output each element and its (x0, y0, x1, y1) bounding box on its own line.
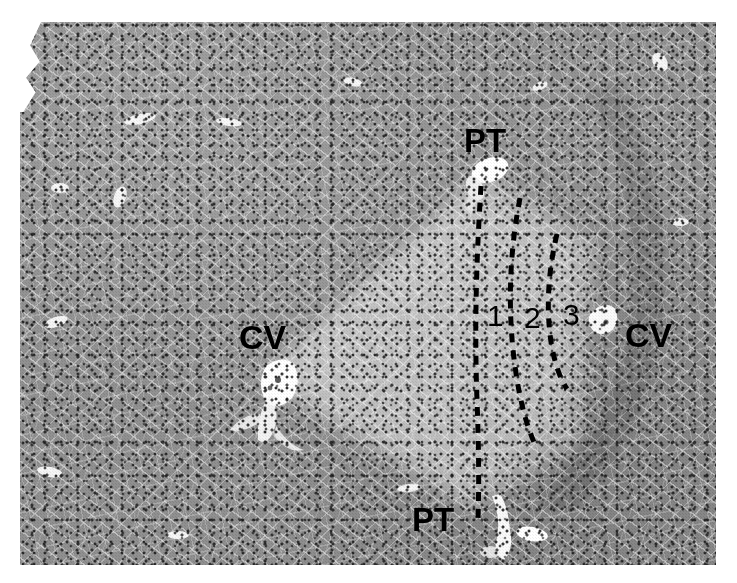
label-zone-1: 1 (487, 301, 504, 331)
label-zone-2: 2 (524, 303, 541, 333)
label-central-vein-left: CV (239, 320, 286, 354)
label-zone-3: 3 (563, 300, 580, 330)
film-grain (20, 22, 716, 565)
label-portal-tract-bottom: PT (412, 503, 454, 536)
page-margin-right (716, 0, 737, 583)
page-margin-left (0, 0, 20, 583)
page-margin-bottom (0, 565, 737, 583)
label-central-vein-right: CV (625, 318, 672, 352)
micrograph-figure: PT PT CV CV 1 2 3 (0, 0, 737, 583)
tissue-section (20, 22, 716, 565)
page-margin-top (0, 0, 737, 22)
label-portal-tract-top: PT (464, 124, 506, 157)
